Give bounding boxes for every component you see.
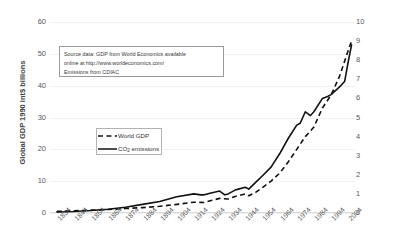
y-right-tick-1: 1 — [356, 189, 376, 198]
source-line-2: online at http://www.worldeconomics.com/ — [64, 59, 219, 68]
source-annotation-box: Source data: GDP from World Economics av… — [59, 46, 224, 77]
chart-container: Global GDP 1990 int$ billions CO2 emissi… — [0, 0, 397, 250]
legend-swatch-dashed — [98, 132, 117, 140]
y-right-tick-4: 4 — [356, 132, 376, 141]
legend-item-co2-emissions: CO2 emissions — [97, 142, 161, 155]
legend-label-co2-emissions: CO2 emissions — [118, 145, 159, 152]
y-left-tick-10: 10 — [26, 176, 46, 185]
y-right-tick-9: 9 — [356, 36, 376, 45]
y-left-tick-0: 0 — [26, 208, 46, 217]
legend-swatch-solid — [98, 145, 117, 153]
y-right-tick-6: 6 — [356, 93, 376, 102]
y-right-tick-10: 10 — [356, 17, 376, 26]
y-left-tick-40: 40 — [26, 81, 46, 90]
y-left-tick-50: 50 — [26, 49, 46, 58]
legend: World GDP CO2 emissions — [96, 128, 162, 155]
y-right-tick-2: 2 — [356, 170, 376, 179]
y-left-tick-20: 20 — [26, 144, 46, 153]
y-left-tick-60: 60 — [26, 17, 46, 26]
y-left-tick-30: 30 — [26, 113, 46, 122]
y-axis-left-ticks: 0102030405060 — [22, 0, 46, 250]
y-right-tick-3: 3 — [356, 151, 376, 160]
legend-label-world-gdp: World GDP — [118, 132, 149, 139]
y-right-tick-5: 5 — [356, 113, 376, 122]
source-line-1: Source data: GDP from World Economics av… — [64, 50, 219, 59]
y-right-tick-8: 8 — [356, 55, 376, 64]
y-right-tick-7: 7 — [356, 74, 376, 83]
x-axis-ticks: 1834184418541864187418841894190419141924… — [50, 213, 355, 250]
source-line-3: Emissions from CDIAC — [64, 68, 219, 77]
legend-item-world-gdp: World GDP — [97, 129, 161, 142]
